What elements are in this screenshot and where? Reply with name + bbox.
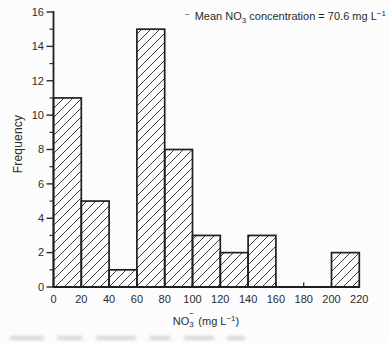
x-axis-title-exponent: −1	[226, 314, 235, 323]
x-tick-label: 100	[183, 293, 201, 305]
x-tick-label: 180	[295, 293, 313, 305]
y-tick-label: 2	[38, 246, 44, 258]
histogram-figure: 0204060801001201401601802002200246810121…	[0, 0, 390, 343]
histogram-bars	[54, 29, 360, 287]
histogram-bar	[220, 253, 248, 287]
histogram-bar	[248, 235, 276, 287]
y-tick-label: 12	[32, 75, 44, 87]
chart-canvas: 0204060801001201401601802002200246810121…	[0, 0, 390, 343]
x-axis-title-close: )	[236, 315, 240, 327]
y-tick-label: 8	[38, 143, 44, 155]
x-tick-label: 120	[211, 293, 229, 305]
y-tick-label: 10	[32, 109, 44, 121]
stray-superscript-minus: −	[185, 10, 190, 19]
annotation-text: Mean NO	[195, 10, 242, 22]
x-tick-label: 20	[75, 293, 87, 305]
mean-annotation: −Mean NO3 concentration = 70.6 mg L−1	[185, 10, 386, 22]
y-axis-title: Frequency	[11, 115, 25, 174]
x-tick-label: 80	[159, 293, 171, 305]
x-tick-label: 200	[322, 293, 340, 305]
nitrate-three: 3	[189, 320, 193, 329]
x-axis-title-unit: (mg L	[195, 315, 226, 327]
nitrate-sub-sup: −3	[189, 314, 195, 325]
x-tick-label: 60	[131, 293, 143, 305]
histogram-bar	[193, 235, 221, 287]
annotation-exponent: −1	[377, 9, 386, 18]
y-tick-label: 4	[38, 212, 44, 224]
x-tick-label: 220	[350, 293, 368, 305]
histogram-bar	[109, 270, 137, 287]
x-tick-label: 0	[50, 293, 56, 305]
x-tick-label: 140	[239, 293, 257, 305]
annotation-sub-three: 3	[242, 16, 246, 25]
nitrate-minus: −	[189, 309, 194, 318]
cut-off-caption-ghost	[10, 336, 250, 342]
histogram-bar	[165, 150, 193, 288]
x-axis-title: NO−3 (mg L−1)	[53, 314, 359, 327]
y-tick-label: 6	[38, 178, 44, 190]
histogram-bar	[54, 98, 82, 287]
y-tick-label: 0	[38, 281, 44, 293]
x-axis-title-chem: NO	[173, 315, 190, 327]
histogram-bar	[137, 29, 165, 287]
x-tick-label: 160	[267, 293, 285, 305]
y-tick-label: 16	[32, 6, 44, 18]
annotation-text-rest: concentration = 70.6 mg L	[246, 10, 377, 22]
y-tick-label: 14	[32, 40, 44, 52]
histogram-bar	[81, 201, 109, 287]
histogram-bar	[332, 253, 360, 287]
y-axis-ticks: 0246810121416	[32, 6, 54, 293]
x-tick-label: 40	[103, 293, 115, 305]
